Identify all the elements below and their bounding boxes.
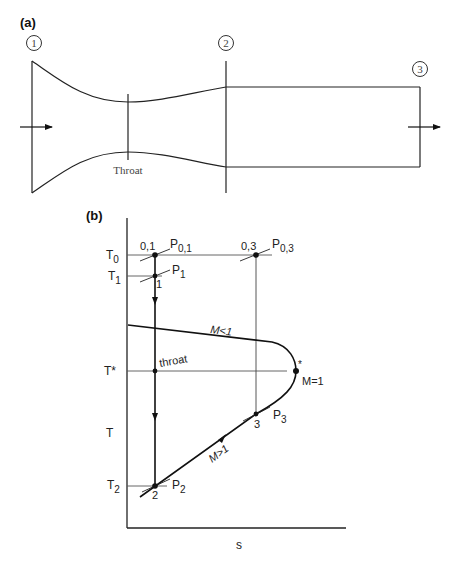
down-arrow-icon [152,413,158,421]
sonic-label: M=1 [302,375,324,387]
point-03 [253,252,259,258]
p01-label: P0,1 [170,237,192,254]
state-1-label: 1 [156,278,162,290]
x-axis-label: s [236,538,242,552]
fanno-line [128,325,296,497]
point-3 [254,412,259,417]
t1-label: T1 [108,269,121,286]
panel-b-label: (b) [86,208,103,223]
throat-label: Throat [113,164,142,176]
point-2 [152,483,158,489]
axes [127,218,346,528]
sonic-star-marker: * [298,359,302,370]
p03-label: P0,3 [272,237,294,254]
down-arrow-icon [152,297,158,305]
svg-text:2: 2 [223,37,229,49]
state-3-label: 3 [254,418,260,430]
p3-label: P3 [273,408,287,425]
svg-text:3: 3 [417,63,423,75]
t0-label: T0 [106,248,119,265]
panel-a-label: (a) [20,15,36,30]
state-03-label: 0,3 [241,240,256,252]
p1-label: P1 [172,263,186,280]
p2-label: P2 [172,478,186,495]
point-01 [152,252,158,258]
station-1-marker: 1 [27,36,42,51]
state-01-label: 0,1 [140,240,155,252]
svg-text:1: 1 [31,37,37,49]
station-2-marker: 2 [219,36,234,51]
point-throat [153,369,158,374]
t2-label: T2 [107,478,120,495]
reference-lines [127,255,287,486]
y-axis-label: T [106,426,114,440]
right-arrow-icon [218,434,226,443]
throat-point-label: throat [158,352,188,369]
station-3-marker: 3 [413,62,428,77]
tstar-label: T* [104,364,116,378]
figure: (a) 1 2 3 Throat (b) T s T0 T1 T* T2 [0,0,458,563]
state-2-label: 2 [152,489,158,501]
supersonic-branch-label: M>1 [206,442,231,464]
